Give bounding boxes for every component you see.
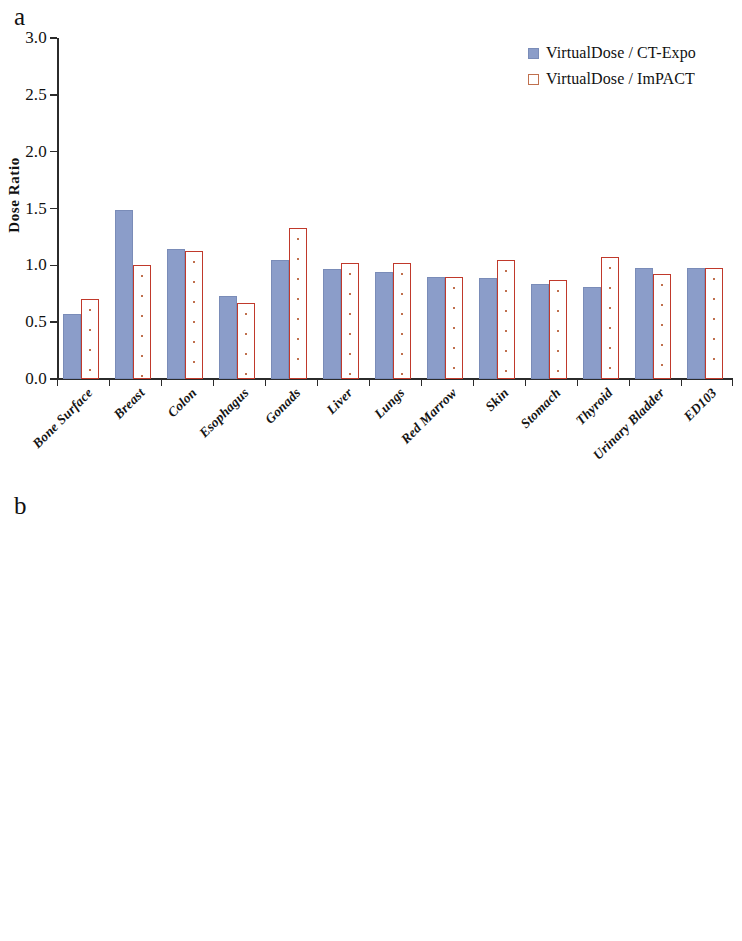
x-axis-labels-a: Bone SurfaceBreastColonEsophagusGonadsLi… <box>57 379 733 469</box>
bar-group <box>473 38 525 379</box>
x-axis-category-label: Breast <box>111 385 149 423</box>
bar-ct-expo <box>167 249 185 379</box>
y-tick-label: 0.5 <box>25 312 47 332</box>
bar-ct-expo <box>427 277 445 379</box>
bar-impact <box>445 277 463 379</box>
x-axis-category-label: Lungs <box>371 385 408 422</box>
bar-impact <box>653 274 671 379</box>
bar-group <box>213 38 265 379</box>
legend-swatch-red-icon <box>528 74 539 85</box>
y-tick-mark <box>50 37 57 38</box>
bar-group <box>161 38 213 379</box>
bar-impact <box>237 303 255 379</box>
y-tick-label: 2.0 <box>25 142 47 162</box>
bar-impact <box>497 260 515 379</box>
bar-ct-expo <box>375 272 393 379</box>
bar-group <box>421 38 473 379</box>
x-axis-category-label: Skin <box>482 385 512 415</box>
x-axis-category-label: Colon <box>164 385 200 421</box>
y-tick-mark <box>50 151 57 152</box>
y-tick-mark <box>50 94 57 95</box>
y-tick-label: 1.0 <box>25 255 47 275</box>
bar-ct-expo <box>531 284 549 379</box>
bar-ct-expo <box>219 296 237 379</box>
bar-ct-expo <box>115 210 133 379</box>
y-tick-label: 1.5 <box>25 199 47 219</box>
x-axis-category-label: Esophagus <box>196 385 252 441</box>
bar-ct-expo <box>635 268 653 379</box>
bar-ct-expo <box>479 278 497 379</box>
bar-impact <box>549 280 567 379</box>
y-tick-label: 2.5 <box>25 85 47 105</box>
y-tick-mark <box>50 265 57 266</box>
bar-group <box>57 38 109 379</box>
bar-ct-expo <box>323 269 341 379</box>
legend-item-ct-expo: VirtualDose / CT-Expo <box>528 40 696 66</box>
bar-impact <box>705 268 723 379</box>
legend-a: VirtualDose / CT-Expo VirtualDose / ImPA… <box>528 40 696 92</box>
y-tick-label: 3.0 <box>25 28 47 48</box>
bar-impact <box>185 251 203 379</box>
legend-label-ct-expo: VirtualDose / CT-Expo <box>546 44 696 62</box>
panel-b-letter: b <box>14 492 27 520</box>
y-axis-title-a: Dose Ratio <box>6 157 23 233</box>
chart-panel-a: a Dose Ratio 0.00.51.01.52.02.53.0 Bone … <box>0 0 742 470</box>
x-axis-category-label: Liver <box>324 385 357 418</box>
bar-group <box>369 38 421 379</box>
x-axis-category-label: Gonads <box>262 385 304 427</box>
bar-ct-expo <box>271 260 289 379</box>
x-axis-category-label: Bone Surface <box>29 385 96 452</box>
legend-label-impact: VirtualDose / ImPACT <box>546 70 695 88</box>
bar-impact <box>393 263 411 379</box>
chart-panel-b: b Dose Ratio 0.00.51.01.52.02.53.0 Adren… <box>0 470 742 941</box>
bar-ct-expo <box>583 287 601 379</box>
bar-group <box>109 38 161 379</box>
legend-swatch-blue-icon <box>528 48 539 59</box>
x-axis-category-label: Stomach <box>518 385 565 432</box>
y-tick-label: 0.0 <box>25 369 47 389</box>
y-tick-mark <box>50 321 57 322</box>
y-tick-mark <box>50 378 57 379</box>
y-tick-mark <box>50 208 57 209</box>
bar-ct-expo <box>63 314 81 379</box>
bar-group <box>265 38 317 379</box>
bar-impact <box>289 228 307 379</box>
bar-group <box>317 38 369 379</box>
bar-impact <box>133 265 151 379</box>
bar-impact <box>601 257 619 379</box>
legend-item-impact: VirtualDose / ImPACT <box>528 66 696 92</box>
bar-impact <box>81 299 99 379</box>
bar-ct-expo <box>687 268 705 379</box>
x-axis-category-label: Thyroid <box>573 385 617 429</box>
bar-impact <box>341 263 359 379</box>
panel-a-letter: a <box>14 3 25 31</box>
x-axis-category-label: ED103 <box>681 385 721 425</box>
